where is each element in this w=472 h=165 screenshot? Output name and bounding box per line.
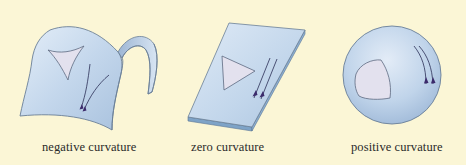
sphere-surface <box>343 26 441 124</box>
saddle-surface <box>20 27 157 130</box>
flat-plane-surface <box>188 23 305 131</box>
positive-curvature-label: positive curvature <box>351 140 443 155</box>
zero-curvature-label: zero curvature <box>191 140 264 155</box>
curvature-diagram: negative curvature zero curvature positi… <box>0 0 466 165</box>
negative-curvature-label: negative curvature <box>42 140 136 155</box>
